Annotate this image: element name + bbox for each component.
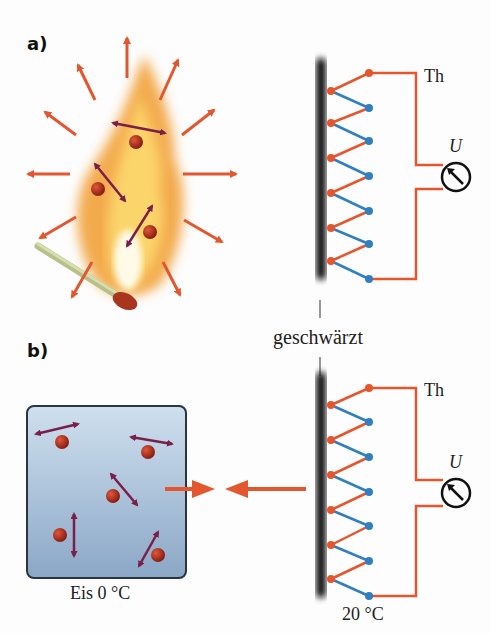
voltage-label-bottom: U <box>449 452 462 473</box>
ice-label: Eis 0 °C <box>70 583 130 604</box>
voltmeter-icon-top <box>442 163 470 191</box>
thermopile-label-bottom: Th <box>424 380 444 401</box>
blackened-label: geschwärzt <box>273 326 363 349</box>
voltmeter-icon-bottom <box>442 479 470 507</box>
diagram-canvas <box>0 0 491 633</box>
detector-temperature-label: 20 °C <box>342 604 384 625</box>
thermopile-bottom <box>327 384 443 600</box>
blackened-plate-top <box>316 58 326 280</box>
voltage-label-top: U <box>449 136 462 157</box>
flame <box>77 55 183 296</box>
thermopile-label-top: Th <box>424 66 444 87</box>
thermal-radiation-diagram: a) b) Th U geschwärzt Th U Eis 0 °C 20 °… <box>0 0 491 633</box>
part-b-label: b) <box>27 340 48 361</box>
blackened-plate-bottom <box>316 372 326 598</box>
thermopile-top <box>327 69 443 283</box>
part-a-label: a) <box>27 33 47 54</box>
